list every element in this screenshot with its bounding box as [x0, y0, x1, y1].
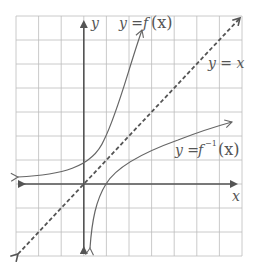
x-axis-label: x: [232, 188, 240, 204]
svg-text:(x): (x): [151, 13, 173, 32]
identity-label: y = x: [207, 55, 245, 71]
function-inverse-diagram: y x y = f (x) y = x y = f −1 (x): [0, 0, 255, 273]
svg-text:−1: −1: [205, 139, 217, 148]
f-label: y = f (x): [118, 13, 173, 32]
svg-text:y =: y =: [174, 142, 199, 158]
svg-text:(x): (x): [218, 140, 240, 159]
f-inverse-label: y = f −1 (x): [174, 139, 240, 159]
svg-text:y =: y =: [118, 15, 143, 31]
svg-text:f: f: [142, 15, 151, 31]
y-axis-label: y: [90, 15, 100, 31]
f-curve: [18, 30, 142, 177]
